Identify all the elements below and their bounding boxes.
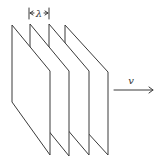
velocity-label: v (128, 75, 134, 86)
wavelength-marker: λ (29, 8, 49, 19)
wavefront-diagram: λ v (0, 0, 164, 163)
diagram-svg: λ v (0, 0, 164, 163)
wavelength-label: λ (35, 8, 42, 19)
velocity-indicator: v (114, 75, 153, 93)
